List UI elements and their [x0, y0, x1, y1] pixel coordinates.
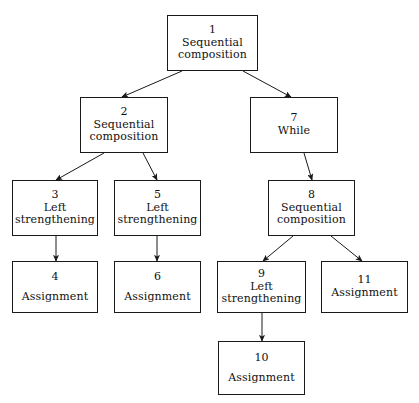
- tree-node-4: 4Assignment: [12, 261, 98, 313]
- tree-node-8: 8Sequential composition: [268, 180, 355, 236]
- node-number: 8: [308, 189, 315, 202]
- tree-edge: [143, 153, 157, 180]
- tree-node-3: 3Left strengthening: [12, 180, 98, 236]
- tree-edge: [243, 71, 291, 97]
- node-label: Assignment: [331, 287, 397, 300]
- node-label: Assignment: [22, 291, 88, 304]
- node-label: Sequential composition: [90, 119, 159, 145]
- tree-edge: [122, 71, 182, 97]
- node-number: 6: [154, 271, 161, 284]
- node-label: Assignment: [228, 372, 294, 385]
- node-label: Sequential composition: [178, 37, 247, 63]
- tree-node-7: 7While: [250, 97, 338, 153]
- node-label: Left strengthening: [117, 202, 197, 228]
- node-number: 3: [51, 189, 58, 202]
- node-number: 10: [254, 352, 268, 365]
- node-number: 5: [154, 189, 161, 202]
- node-label: While: [278, 125, 310, 138]
- node-label: Assignment: [124, 291, 190, 304]
- tree-edge: [331, 236, 362, 261]
- tree-node-6: 6Assignment: [114, 261, 201, 313]
- node-number: 2: [120, 106, 127, 119]
- node-number: 4: [51, 271, 58, 284]
- derivation-tree-diagram: 1Sequential composition2Sequential compo…: [0, 0, 419, 403]
- tree-node-5: 5Left strengthening: [114, 180, 201, 236]
- tree-node-10: 10Assignment: [218, 341, 305, 395]
- tree-edge: [304, 153, 312, 180]
- node-label: Left strengthening: [221, 281, 301, 307]
- node-label: Left strengthening: [15, 202, 95, 228]
- node-number: 9: [258, 268, 265, 281]
- tree-edge: [56, 153, 104, 180]
- tree-edge: [263, 236, 293, 261]
- tree-node-2: 2Sequential composition: [80, 97, 168, 153]
- node-label: Sequential composition: [277, 202, 346, 228]
- tree-node-9: 9Left strengthening: [217, 261, 306, 313]
- tree-node-11: 11Assignment: [321, 261, 408, 313]
- tree-node-1: 1Sequential composition: [167, 15, 258, 71]
- node-number: 1: [209, 24, 216, 37]
